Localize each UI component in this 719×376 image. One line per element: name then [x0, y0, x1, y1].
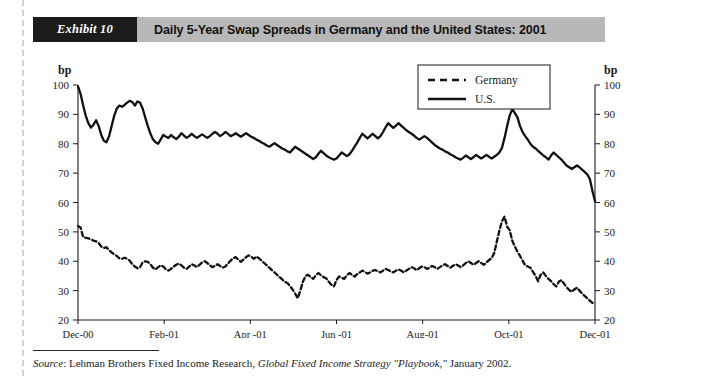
x-tick-label: Dec-01 — [580, 329, 611, 338]
x-tick-label: Apr -01 — [234, 329, 267, 338]
y-tick-label-right: 70 — [604, 167, 616, 179]
y-tick-label-left: 30 — [58, 285, 70, 297]
y-tick-label-left: 50 — [58, 226, 70, 238]
x-tick-label: Aug-01 — [407, 329, 439, 338]
y-tick-label-left: 40 — [58, 255, 70, 267]
legend-label-germany: Germany — [475, 74, 518, 87]
x-tick-label: Feb-01 — [149, 329, 179, 338]
y-tick-label-right: 90 — [604, 108, 616, 120]
chart-container: 20304050607080901002030405060708090100bp… — [0, 48, 719, 338]
swap-spreads-line-chart: 20304050607080901002030405060708090100bp… — [0, 48, 719, 338]
y-tick-label-left: 60 — [58, 197, 70, 209]
y-tick-label-right: 100 — [604, 79, 621, 91]
y-tick-label-right: 30 — [604, 285, 616, 297]
series-line-germany — [78, 217, 595, 305]
y-tick-label-left: 90 — [58, 108, 70, 120]
y-tick-label-left: 80 — [58, 138, 70, 150]
x-tick-label: Dec-00 — [63, 329, 94, 338]
y-tick-label-right: 60 — [604, 197, 616, 209]
exhibit-tag: Exhibit 10 — [33, 17, 137, 42]
legend-label-us: U.S. — [475, 93, 496, 105]
exhibit-title: Daily 5-Year Swap Spreads in Germany and… — [137, 17, 605, 42]
y-tick-label-right: 80 — [604, 138, 616, 150]
source-divider — [33, 350, 159, 351]
y-tick-label-right: 20 — [604, 314, 616, 326]
y-tick-label-left: 20 — [58, 314, 70, 326]
y-unit-label-right: bp — [604, 63, 618, 77]
y-unit-label-left: bp — [58, 63, 72, 77]
exhibit-header: Exhibit 10 Daily 5-Year Swap Spreads in … — [33, 17, 605, 42]
x-tick-label: Jun -01 — [321, 329, 352, 338]
x-tick-label: Oct-01 — [494, 329, 523, 338]
y-tick-label-right: 50 — [604, 226, 616, 238]
y-tick-label-right: 40 — [604, 255, 616, 267]
y-tick-label-left: 100 — [53, 79, 70, 91]
y-tick-label-left: 70 — [58, 167, 70, 179]
source-label: Source — [33, 357, 63, 369]
source-text-lead: : Lehman Brothers Fixed Income Research, — [63, 357, 258, 369]
source-text-tail: January 2002. — [447, 357, 511, 369]
source-note: Source: Lehman Brothers Fixed Income Res… — [33, 357, 693, 369]
source-publication: Global Fixed Income Strategy "Playbook," — [258, 357, 447, 369]
